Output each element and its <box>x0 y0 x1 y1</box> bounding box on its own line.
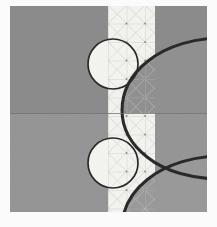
figure-container: Periodic bulb-shaped inclusion array wit… <box>0 0 217 227</box>
texture-overlay <box>10 6 207 212</box>
plate-group <box>10 6 217 227</box>
inclusion-mesh-figure <box>0 0 217 227</box>
